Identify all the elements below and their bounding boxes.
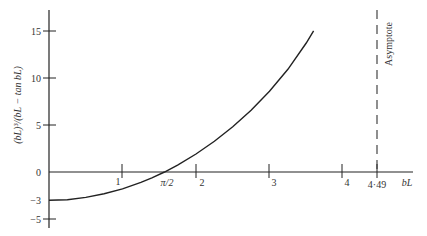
x-tick-pi-over-2: π/2 <box>161 177 174 188</box>
y-tick-10: 10 <box>31 73 41 84</box>
y-tick-15: 15 <box>31 26 41 37</box>
y-tick-0: 0 <box>36 167 41 178</box>
curve-series <box>49 31 314 200</box>
x-tick-1: 1 <box>116 176 121 187</box>
x-tick-labels: 1 π/2 2 3 4 4·49 <box>116 176 387 190</box>
chart: 15 10 5 0 −3 −5 1 π/2 2 3 4 4·49 bL (bL)… <box>0 0 427 236</box>
y-tick-neg3: −3 <box>30 195 41 206</box>
x-tick-4-49: 4·49 <box>368 179 386 190</box>
x-tick-3: 3 <box>272 177 277 188</box>
x-tick-4: 4 <box>345 177 350 188</box>
x-ticks <box>122 164 377 178</box>
x-tick-2: 2 <box>200 177 205 188</box>
y-axis-label: (bL)³/(bL − tan bL) <box>12 66 24 144</box>
x-axis-label: bL <box>402 177 413 188</box>
asymptote-label: Asymptote <box>383 21 394 65</box>
y-tick-labels: 15 10 5 0 −3 −5 <box>30 26 41 225</box>
y-tick-5: 5 <box>36 120 41 131</box>
y-tick-neg5: −5 <box>30 214 41 225</box>
